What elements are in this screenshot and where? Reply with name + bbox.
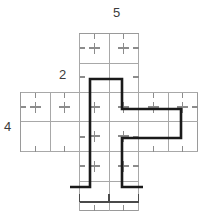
- dimension-label-middle: 2: [59, 68, 66, 81]
- dimension-bracket-bottom: [80, 194, 139, 202]
- dimension-label-top: 5: [113, 6, 120, 19]
- grid-internal-lines: [21, 34, 198, 211]
- dimension-label-left: 4: [4, 120, 11, 133]
- geometry-figure: [0, 0, 204, 217]
- bold-shape-outline: [70, 79, 181, 187]
